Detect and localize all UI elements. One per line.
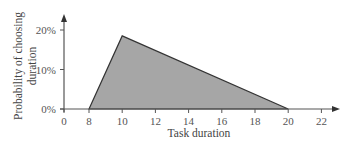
x-ticks: 0810121416182022 (61, 109, 327, 127)
x-tick-label: 14 (183, 115, 195, 127)
x-tick-label: 18 (250, 115, 262, 127)
x-tick-label: 12 (150, 115, 161, 127)
x-tick-label: 16 (216, 115, 228, 127)
y-axis-arrow-icon (61, 14, 67, 22)
y-tick-label: 0% (41, 103, 56, 115)
x-tick-label: 8 (86, 115, 92, 127)
y-axis-title-line1: Probability of choosing (12, 12, 25, 120)
y-axis-title-line2: duration (26, 47, 38, 86)
y-tick-label: 20% (36, 24, 56, 36)
x-tick-label: 10 (117, 115, 129, 127)
y-ticks: 0%10%20% (36, 24, 64, 115)
y-tick-label: 10% (36, 64, 56, 76)
x-axis-arrow-icon (332, 106, 340, 112)
x-axis-title: Task duration (168, 127, 231, 139)
triangular-distribution-chart: 0810121416182022 0%10%20% Task duration … (0, 0, 350, 152)
x-tick-label: 22 (316, 115, 327, 127)
x-tick-label: 20 (283, 115, 295, 127)
x-tick-label: 0 (61, 115, 67, 127)
probability-area (89, 36, 288, 109)
